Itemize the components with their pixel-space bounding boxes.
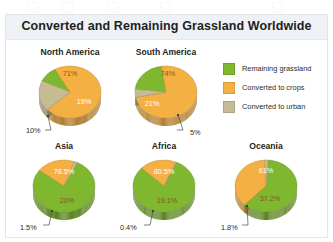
pie-panel-title: North America [18,47,122,57]
chart-figure: Converted and Remaining Grassland Worldw… [5,14,328,238]
pie-chart-africa: 80.5%19.1%0.4% [112,152,216,232]
chart-legend: Remaining grassland Converted to crops C… [219,61,327,118]
legend-label-crops: Converted to crops [242,82,304,94]
legend-swatch-grassland [223,63,235,75]
svg-text:0.4%: 0.4% [120,223,137,232]
svg-text:1.8%: 1.8% [221,223,238,232]
svg-text:21%: 21% [145,99,160,108]
pie-panel-oceania: Oceania 61%37.2%1.8% [214,141,318,233]
pie-panel-africa: Africa 80.5%19.1%0.4% [112,141,216,233]
svg-text:5%: 5% [190,128,201,137]
svg-text:10%: 10% [26,126,41,135]
svg-text:19%: 19% [77,97,92,106]
pie-panel-south-america: South America 74%21%5% [114,47,218,139]
pie-panel-title: Africa [112,141,216,151]
legend-item-grassland: Remaining grassland [219,61,327,80]
ghost-artifact [272,2,283,13]
pie-chart-asia: 78.5%20%1.5% [12,152,116,232]
pie-panel-title: Oceania [214,141,318,151]
svg-text:78.5%: 78.5% [54,167,75,176]
pie-panel-title: South America [114,47,218,57]
legend-item-crops: Converted to crops [219,80,327,99]
svg-text:20%: 20% [60,196,75,205]
svg-text:71%: 71% [63,69,78,78]
svg-text:80.5%: 80.5% [154,167,175,176]
legend-label-grassland: Remaining grassland [242,63,311,75]
pie-panel-asia: Asia 78.5%20%1.5% [12,141,116,233]
pie-chart-oceania: 61%37.2%1.8% [214,152,318,232]
capture-top-artifacts [0,0,333,13]
svg-text:74%: 74% [161,69,176,78]
pie-chart-north-america: 71%19%10% [18,58,122,138]
legend-label-urban: Converted to urban [242,101,305,113]
legend-item-urban: Converted to urban [219,99,327,118]
svg-text:61%: 61% [259,166,274,175]
svg-text:37.2%: 37.2% [260,194,281,203]
pie-panel-title: Asia [12,141,116,151]
pie-panel-north-america: North America 71%19%10% [18,47,122,139]
ghost-artifact [160,2,171,13]
ghost-artifact [28,2,39,13]
legend-swatch-crops [223,82,235,94]
ghost-artifact [62,2,73,13]
svg-text:1.5%: 1.5% [20,223,37,232]
ghost-artifact [108,2,119,13]
pie-chart-south-america: 74%21%5% [114,58,218,138]
page-title: Converted and Remaining Grassland Worldw… [6,19,327,33]
legend-swatch-urban [223,101,235,113]
svg-text:19.1%: 19.1% [157,196,178,205]
